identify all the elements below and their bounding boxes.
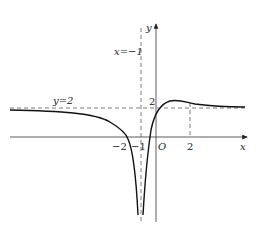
curve-right-branch: [143, 100, 245, 215]
tick-label-neg2: −2: [112, 141, 127, 152]
origin-label: O: [158, 141, 166, 152]
vertical-asymptote-label: x=−1: [114, 46, 143, 57]
tick-label-neg1: −1: [131, 141, 146, 152]
y-axis-label: y: [145, 22, 152, 33]
tick-label-x2: 2: [187, 141, 193, 152]
curve-left-branch: [10, 110, 138, 215]
x-axis-label: x: [240, 141, 246, 152]
function-graph: y x O x=−1 y=2 −2 −1 2 2: [0, 0, 259, 233]
horizontal-asymptote-label: y=2: [52, 95, 73, 106]
tick-label-y2: 2: [149, 96, 155, 107]
